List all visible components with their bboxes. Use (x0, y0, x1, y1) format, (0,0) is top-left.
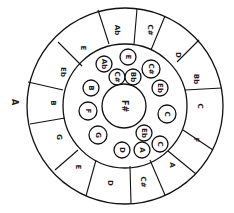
inner-node: F (79, 102, 97, 120)
marker-triangle-icon: A (10, 99, 19, 106)
inner-node-label: B (87, 85, 95, 90)
outer-cell-label: D (106, 180, 114, 186)
inner-node-label: Eb (140, 128, 148, 138)
outer-cell-label: Bb (192, 74, 200, 84)
inner-node: A (134, 142, 150, 158)
marker-label: A (10, 99, 19, 106)
inner-node-label: Ab (100, 59, 108, 69)
inner-node-label: E (124, 55, 132, 60)
inner-node: Eb (152, 80, 168, 96)
inner-node-label: G (94, 132, 102, 138)
inner-node: E (120, 49, 136, 65)
inner-node: C# (109, 69, 125, 85)
inner-node-label: C (156, 141, 164, 146)
outer-cell-label: E (74, 165, 82, 170)
outer-cell-label: Eb (59, 67, 67, 77)
outer-cell-label: E (79, 46, 87, 51)
center-node: F# (102, 84, 146, 128)
inner-node-label: F (84, 109, 92, 114)
inner-node-label: C (163, 111, 171, 116)
outer-cell-label: C# (139, 176, 147, 187)
inner-node: D (114, 142, 130, 158)
inner-node-label: Bb (129, 72, 137, 82)
inner-node: G (89, 126, 107, 144)
outer-cell-label: G (55, 134, 63, 140)
inner-node-label: Eb (156, 83, 164, 93)
inner-node: C (152, 136, 168, 152)
outer-cell-label: F (192, 138, 200, 143)
outer-cell-label: B (49, 100, 57, 105)
inner-node-label: C# (147, 63, 155, 74)
center-label: F# (120, 100, 129, 112)
inner-node-label: D (118, 147, 126, 153)
inner-node: C# (142, 60, 160, 78)
inner-node-label: A (138, 147, 146, 153)
outer-cell-label: A (168, 162, 176, 168)
outer-cell-label: C# (146, 24, 154, 35)
inner-node: Bb (125, 69, 141, 85)
key-circle-diagram: A AbC#DBbCFAC#DEGBEbE AbEC#BbC#EbCEbCADG… (0, 0, 234, 213)
outer-cell-label: Ab (113, 25, 121, 35)
inner-node: Ab (96, 56, 112, 72)
inner-node: C (158, 105, 176, 123)
outer-cell-label: D (174, 52, 182, 58)
inner-node: B (83, 80, 99, 96)
inner-node-label: C# (113, 71, 121, 82)
outer-cell-label: C (196, 103, 204, 108)
inner-node: Eb (136, 125, 152, 141)
